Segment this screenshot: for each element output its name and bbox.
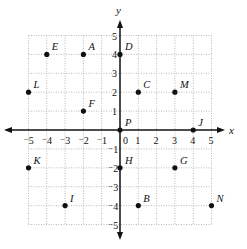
y-tick-label: ⁻5	[108, 220, 118, 231]
point-label-d: D	[124, 41, 133, 52]
origin-label: 0	[123, 135, 128, 146]
y-axis-arrow-up-icon	[117, 20, 123, 28]
point-label-m: M	[179, 79, 190, 90]
point-a	[81, 52, 86, 57]
point-label-c: C	[143, 79, 151, 90]
point-l	[26, 90, 31, 95]
x-tick-label: ⁻1	[97, 135, 107, 146]
point-h	[117, 165, 122, 170]
y-tick-label: 1	[112, 106, 117, 117]
y-tick-label: ⁻4	[108, 201, 118, 212]
point-label-i: I	[69, 193, 74, 204]
x-tick-label: 4	[190, 135, 195, 146]
point-label-b: B	[143, 193, 150, 204]
x-tick-label: 1	[135, 135, 140, 146]
point-label-g: G	[180, 155, 188, 166]
point-label-a: A	[87, 41, 95, 52]
y-tick-label: 4	[112, 49, 117, 60]
point-g	[172, 165, 177, 170]
y-tick-label: ⁻3	[108, 182, 118, 193]
point-b	[136, 203, 141, 208]
x-tick-label: 2	[154, 135, 159, 146]
x-tick-label: ⁻3	[60, 135, 70, 146]
point-label-j: J	[198, 117, 204, 128]
y-axis-arrow-down-icon	[117, 232, 123, 240]
y-tick-label: 2	[112, 87, 117, 98]
point-label-p: P	[124, 117, 132, 128]
point-i	[63, 203, 68, 208]
x-tick-label: ⁻2	[78, 135, 88, 146]
point-label-e: E	[51, 41, 59, 52]
x-axis-arrow-right-icon	[217, 127, 225, 133]
point-label-n: N	[216, 193, 225, 204]
point-label-h: H	[124, 155, 134, 166]
point-label-l: L	[33, 79, 40, 90]
x-axis-label: x	[228, 124, 234, 136]
x-tick-label: ⁻5	[24, 135, 34, 146]
point-j	[191, 127, 196, 132]
point-label-k: K	[33, 155, 42, 166]
x-axis-arrow-left-icon	[4, 127, 12, 133]
point-p	[117, 127, 122, 132]
coordinate-plane: xy ⁻5⁻4⁻3⁻2⁻1123450⁻5⁻4⁻3⁻2⁻112345 ABCDE…	[0, 0, 247, 249]
x-tick-label: 5	[209, 135, 214, 146]
point-d	[117, 52, 122, 57]
y-tick-label: 3	[112, 68, 117, 79]
y-tick-label: ⁻2	[108, 163, 118, 174]
y-axis-label: y	[115, 4, 121, 16]
point-k	[26, 165, 31, 170]
y-tick-label: 5	[112, 31, 117, 42]
x-tick-label: ⁻4	[42, 135, 52, 146]
point-f	[81, 109, 86, 114]
point-label-f: F	[87, 98, 95, 109]
point-m	[172, 90, 177, 95]
plotted-points: ABCDEFGHIJKLMNP	[26, 41, 225, 208]
point-c	[136, 90, 141, 95]
y-tick-label: ⁻1	[108, 144, 118, 155]
x-tick-label: 3	[172, 135, 177, 146]
point-e	[44, 52, 49, 57]
point-n	[209, 203, 214, 208]
